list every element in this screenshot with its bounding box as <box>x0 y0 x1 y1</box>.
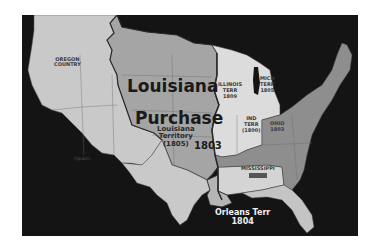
indiana-territory-label: IND TERR (1800) <box>242 115 261 133</box>
louisiana-territory-label: Louisiana Territory (1805) <box>157 126 195 148</box>
purchase-year-label: 1803 <box>194 141 222 151</box>
illinois-territory-label: ILLINOIS TERR 1809 <box>218 81 242 99</box>
spain-label: (Spain) <box>74 157 90 162</box>
mississippi-hatch-mark <box>249 173 267 178</box>
michigan-territory-label: MICH TERR 1805 <box>260 75 275 93</box>
louisiana-purchase-map: OREGON COUNTRY (Spain) Louisiana Purchas… <box>22 15 358 236</box>
oregon-line2: COUNTRY <box>54 62 81 67</box>
ohio-label: OHIO 1803 <box>270 120 285 132</box>
oregon-country-label: OREGON COUNTRY <box>54 57 81 67</box>
subtitle-line3: (1805) <box>157 141 195 148</box>
mississippi-territory-label: MISSISSIPPI <box>241 166 275 178</box>
louisiana-title-line1: Louisiana <box>127 78 218 95</box>
orleans-territory-label: Orleans Terr 1804 <box>215 209 270 227</box>
